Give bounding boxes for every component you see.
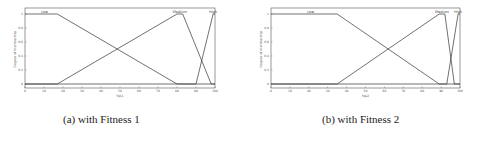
- x-tick-label: 30: [80, 89, 84, 93]
- x-axis-label: fsp1: [117, 94, 124, 98]
- y-tick-label: 0: [21, 82, 23, 86]
- y-tick-label: 0.8: [264, 26, 269, 30]
- mf-label-low: Low: [307, 10, 314, 14]
- y-tick-label: 0.2: [18, 68, 23, 72]
- x-tick-label: 20: [307, 89, 311, 93]
- y-tick-label: 0.4: [18, 54, 23, 58]
- caption-b: (b) with Fitness 2: [322, 113, 399, 125]
- x-tick-label: 0: [24, 89, 26, 93]
- y-tick-label: 0.4: [264, 54, 269, 58]
- x-tick-label: 80: [420, 89, 424, 93]
- x-tick-label: 50: [364, 89, 368, 93]
- y-tick-label: 0.6: [264, 40, 269, 44]
- x-tick-label: 10: [288, 89, 292, 93]
- y-tick-label: 1: [21, 12, 23, 16]
- mf-label-medium: Medium: [435, 10, 450, 14]
- x-axis-label: fsp2: [362, 94, 369, 98]
- figure-panel-b: 010203040506070809010000.20.40.60.81fsp2…: [240, 0, 479, 142]
- x-tick-label: 70: [401, 89, 405, 93]
- x-tick-label: 90: [439, 89, 443, 93]
- x-tick-label: 70: [156, 89, 160, 93]
- y-tick-label: 0.6: [18, 40, 23, 44]
- plot-area: [271, 8, 460, 88]
- y-tick-label: 0.8: [18, 26, 23, 30]
- y-axis-label: Degree of membership: [13, 31, 17, 68]
- caption-a: (a) with Fitness 1: [63, 113, 140, 125]
- x-tick-label: 80: [175, 89, 179, 93]
- x-tick-label: 100: [212, 89, 218, 93]
- mf-label-high: High: [209, 10, 217, 14]
- x-tick-label: 60: [382, 89, 386, 93]
- mf-label-high: High: [454, 10, 462, 14]
- y-axis-label: Degree of membership: [259, 31, 263, 68]
- plot-area: [25, 8, 215, 88]
- membership-chart-b: 010203040506070809010000.20.40.60.81fsp2…: [240, 0, 479, 110]
- x-tick-label: 40: [99, 89, 103, 93]
- membership-chart-a: 010203040506070809010000.20.40.60.81fsp1…: [0, 0, 239, 110]
- x-tick-label: 40: [345, 89, 349, 93]
- x-tick-label: 50: [118, 89, 122, 93]
- y-tick-label: 0.2: [264, 68, 269, 72]
- x-tick-label: 20: [61, 89, 65, 93]
- mf-label-medium: Medium: [173, 10, 188, 14]
- x-tick-label: 90: [194, 89, 198, 93]
- figure-panel-a: 010203040506070809010000.20.40.60.81fsp1…: [0, 0, 239, 142]
- x-tick-label: 30: [326, 89, 330, 93]
- x-tick-label: 60: [137, 89, 141, 93]
- x-tick-label: 10: [42, 89, 46, 93]
- x-tick-label: 100: [457, 89, 463, 93]
- y-tick-label: 1: [267, 12, 269, 16]
- y-tick-label: 0: [267, 82, 269, 86]
- mf-label-low: Low: [41, 10, 48, 14]
- x-tick-label: 0: [270, 89, 272, 93]
